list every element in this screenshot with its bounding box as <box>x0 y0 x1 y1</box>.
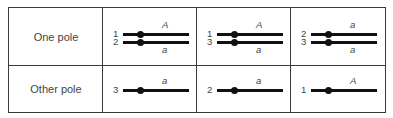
centromere-dot <box>325 39 332 46</box>
centromere-dot <box>325 31 332 38</box>
column-divider <box>290 8 291 112</box>
chromosome-number: 2 <box>207 85 212 95</box>
chromosome-number: 3 <box>113 85 118 95</box>
allele-label: a <box>162 76 167 86</box>
chromosome-line <box>123 41 189 44</box>
chromosome-number: 3 <box>207 37 212 47</box>
row-label-one-pole: One pole <box>9 31 103 43</box>
row-divider <box>9 65 385 66</box>
chromosome-line <box>217 89 283 92</box>
allele-label: A <box>350 76 356 86</box>
segregation-table: One pole Other pole 1A2a1A3a2a3a3a2a1A <box>8 7 386 113</box>
centromere-dot <box>231 39 238 46</box>
centromere-dot <box>231 87 238 94</box>
allele-label: a <box>256 76 261 86</box>
chromosome-line <box>311 33 377 36</box>
allele-label: a <box>350 45 355 55</box>
chromosome-line <box>311 89 377 92</box>
allele-label: A <box>256 20 262 30</box>
column-divider <box>196 8 197 112</box>
row-label-other-pole: Other pole <box>9 83 103 95</box>
allele-label: a <box>256 45 261 55</box>
chromosome-number: 1 <box>301 85 306 95</box>
chromosome-line <box>123 89 189 92</box>
allele-label: a <box>162 45 167 55</box>
centromere-dot <box>137 39 144 46</box>
chromosome-number: 3 <box>301 37 306 47</box>
chromosome-line <box>311 41 377 44</box>
chromosome-number: 2 <box>113 37 118 47</box>
column-divider <box>102 8 103 112</box>
allele-label: A <box>162 20 168 30</box>
centromere-dot <box>137 31 144 38</box>
allele-label: a <box>350 20 355 30</box>
chromosome-line <box>217 41 283 44</box>
chromosome-line <box>217 33 283 36</box>
centromere-dot <box>325 87 332 94</box>
chromosome-line <box>123 33 189 36</box>
centromere-dot <box>137 87 144 94</box>
centromere-dot <box>231 31 238 38</box>
